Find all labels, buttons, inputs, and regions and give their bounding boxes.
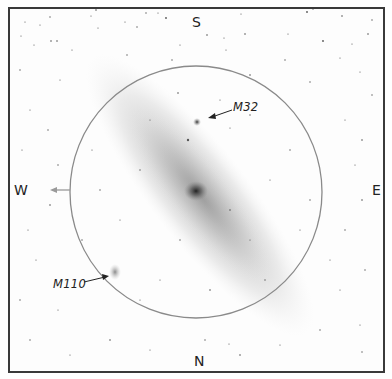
direction-north: N	[194, 353, 204, 369]
label-m110: M110	[53, 277, 86, 291]
direction-south: S	[192, 14, 201, 30]
direction-west: W	[14, 182, 28, 198]
finder-chart: S N W E M32 M110	[0, 0, 392, 379]
m32-pointer-arrow	[208, 110, 232, 119]
sky-field	[0, 0, 392, 379]
label-m32: M32	[233, 100, 258, 114]
m32-blob	[193, 118, 201, 126]
galaxy-core	[184, 181, 208, 201]
m110-blob	[109, 264, 121, 280]
m110-pointer-arrow	[84, 274, 109, 282]
west-arrow-icon	[50, 187, 70, 193]
direction-east: E	[372, 182, 381, 198]
